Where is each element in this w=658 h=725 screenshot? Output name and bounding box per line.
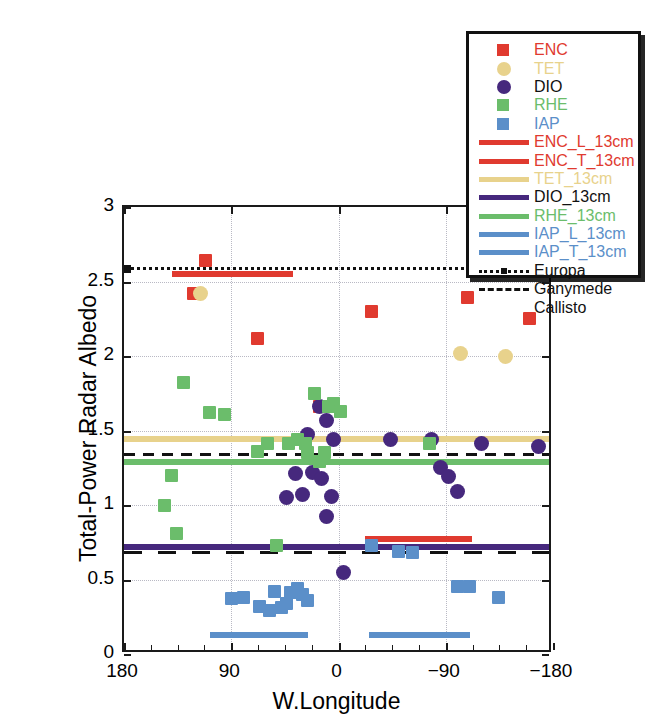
gridline-horizontal xyxy=(124,356,549,357)
data-point-enc xyxy=(251,332,264,345)
data-point-dio xyxy=(279,490,294,505)
x-axis-tick xyxy=(446,643,448,650)
legend-item-ganymede[interactable]: Ganymede xyxy=(469,280,638,298)
x-axis-tick xyxy=(231,643,233,650)
legend-item-iap-t-13cm[interactable]: IAP_T_13cm xyxy=(469,243,638,261)
gridline-horizontal xyxy=(124,580,549,581)
legend-item-enc-t-13cm[interactable]: ENC_T_13cm xyxy=(469,151,638,169)
legend-key-icon xyxy=(478,227,530,241)
y-axis-tick xyxy=(124,431,131,433)
x-axis-tick xyxy=(339,643,341,650)
x-axis-tick xyxy=(553,643,555,650)
chart-legend: ENCTETDIORHEIAPENC_L_13cmENC_T_13cmTET_1… xyxy=(466,31,641,278)
legend-item-tet-13cm[interactable]: TET_13cm xyxy=(469,170,638,188)
y-axis-tick xyxy=(124,282,131,284)
data-point-tet xyxy=(453,346,468,361)
data-point-enc xyxy=(199,254,212,267)
reference-line-enc-t-13cm xyxy=(365,536,472,542)
data-point-enc xyxy=(365,305,378,318)
y-tick-label: 2.5 xyxy=(68,269,114,291)
legend-key-icon xyxy=(478,209,530,223)
reference-line-enc-l-13cm xyxy=(172,271,294,277)
data-point-iap xyxy=(392,545,405,558)
y-axis-tick xyxy=(124,356,131,358)
legend-item-rhe-13cm[interactable]: RHE_13cm xyxy=(469,207,638,225)
legend-label: DIO xyxy=(534,79,562,95)
legend-item-enc[interactable]: ENC xyxy=(469,41,638,59)
x-tick-label: 180 xyxy=(87,660,157,682)
data-point-iap xyxy=(237,591,250,604)
legend-label: Ganymede xyxy=(534,281,612,297)
x-axis-tick xyxy=(124,643,126,650)
y-tick-label: 1.5 xyxy=(68,418,114,440)
legend-key-icon xyxy=(478,154,530,168)
x-axis-minor-tick xyxy=(499,645,500,650)
x-axis-minor-tick xyxy=(258,645,259,650)
x-axis-minor-tick xyxy=(392,645,393,650)
legend-label: IAP_L_13cm xyxy=(534,226,626,242)
y-tick-label: 0 xyxy=(68,641,114,663)
x-axis-minor-tick xyxy=(526,645,527,650)
data-point-iap xyxy=(365,539,378,552)
reference-line-callisto xyxy=(124,551,549,554)
data-point-rhe xyxy=(170,527,183,540)
reference-line-iap-t-13cm xyxy=(369,632,469,638)
data-point-iap xyxy=(406,546,419,559)
reference-line-dio-13cm xyxy=(124,544,549,550)
legend-item-dio[interactable]: DIO xyxy=(469,78,638,96)
legend-item-dio-13cm[interactable]: DIO_13cm xyxy=(469,188,638,206)
x-axis-title: W.Longitude xyxy=(122,688,551,715)
x-axis-minor-tick xyxy=(419,645,420,650)
legend-label: RHE_13cm xyxy=(534,208,616,224)
data-point-iap xyxy=(301,594,314,607)
reference-line-rhe-13cm xyxy=(124,459,549,465)
data-point-tet xyxy=(193,286,208,301)
data-point-rhe xyxy=(165,469,178,482)
legend-item-tet[interactable]: TET xyxy=(469,59,638,77)
legend-item-callisto[interactable]: Callisto xyxy=(469,298,638,316)
data-point-iap xyxy=(463,580,476,593)
data-point-dio xyxy=(336,565,351,580)
legend-item-europa[interactable]: Europa xyxy=(469,262,638,280)
x-axis-tick xyxy=(446,207,448,214)
y-tick-label: 2 xyxy=(68,343,114,365)
data-point-rhe xyxy=(218,408,231,421)
data-point-dio xyxy=(450,484,465,499)
data-point-dio xyxy=(288,466,303,481)
x-axis-minor-tick xyxy=(473,645,474,650)
reference-line-iap-l-13cm xyxy=(210,632,308,638)
legend-label: Callisto xyxy=(534,300,586,316)
data-point-dio xyxy=(441,469,456,484)
radar-albedo-figure: Total-Power Radar Albedo 180900−90−18000… xyxy=(0,0,658,725)
y-axis-tick xyxy=(542,356,549,358)
y-tick-label: 0.5 xyxy=(68,567,114,589)
x-axis-minor-tick xyxy=(178,645,179,650)
x-axis-tick xyxy=(231,207,233,214)
legend-item-iap-l-13cm[interactable]: IAP_L_13cm xyxy=(469,225,638,243)
data-point-iap xyxy=(492,591,505,604)
legend-label: IAP xyxy=(534,116,560,132)
data-point-rhe xyxy=(203,406,216,419)
data-point-rhe xyxy=(308,387,321,400)
legend-key-icon xyxy=(478,282,530,296)
y-axis-tick xyxy=(542,580,549,582)
legend-key-icon xyxy=(478,43,530,57)
legend-item-iap[interactable]: IAP xyxy=(469,115,638,133)
data-point-rhe xyxy=(291,433,304,446)
data-point-rhe xyxy=(158,499,171,512)
y-axis-tick xyxy=(542,505,549,507)
data-point-iap xyxy=(225,592,238,605)
legend-item-rhe[interactable]: RHE xyxy=(469,96,638,114)
data-point-dio xyxy=(383,432,398,447)
legend-label: ENC_L_13cm xyxy=(534,134,634,150)
data-point-dio xyxy=(295,487,310,502)
data-point-rhe xyxy=(318,446,331,459)
europa-marker xyxy=(124,265,131,273)
y-tick-label: 3 xyxy=(68,194,114,216)
legend-item-enc-l-13cm[interactable]: ENC_L_13cm xyxy=(469,133,638,151)
data-point-rhe xyxy=(177,376,190,389)
y-axis-tick xyxy=(542,431,549,433)
legend-label: TET xyxy=(534,61,564,77)
gridline-horizontal xyxy=(124,431,549,432)
reference-line-ganymede xyxy=(124,453,549,456)
